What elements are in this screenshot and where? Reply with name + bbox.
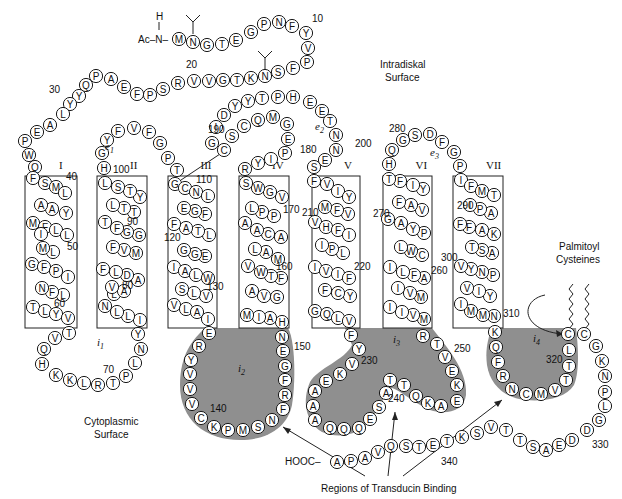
residue: V — [183, 382, 196, 395]
svg-text:G: G — [450, 147, 458, 158]
svg-text:F: F — [397, 176, 403, 187]
svg-text:Y: Y — [135, 329, 142, 340]
position-number: 50 — [67, 241, 79, 252]
residue: T — [98, 215, 111, 228]
svg-text:M: M — [321, 202, 329, 213]
residue: R — [416, 329, 429, 342]
svg-text:Q: Q — [355, 423, 363, 434]
svg-text:F: F — [282, 375, 288, 386]
position-number: 320 — [546, 354, 563, 365]
residue: G — [244, 25, 257, 38]
arrowhead-1 — [283, 427, 291, 434]
residue: A — [308, 413, 321, 426]
svg-text:T: T — [434, 339, 440, 350]
residue: M — [266, 110, 279, 123]
residue: G — [589, 339, 602, 352]
svg-text:L: L — [64, 230, 70, 241]
svg-text:F: F — [134, 89, 140, 100]
svg-text:K: K — [425, 398, 432, 409]
residue: V — [275, 190, 288, 203]
svg-text:H: H — [100, 163, 107, 174]
residue: P — [300, 55, 313, 68]
svg-text:E: E — [206, 328, 213, 339]
svg-text:Q: Q — [388, 145, 396, 156]
position-number: 270 — [373, 208, 390, 219]
residue: A — [539, 443, 552, 456]
residue: T — [430, 337, 443, 350]
svg-text:C: C — [264, 229, 271, 240]
residue: N — [329, 143, 342, 156]
residue: S — [307, 160, 320, 173]
svg-text:L: L — [206, 230, 212, 241]
svg-text:P: P — [275, 92, 282, 103]
residue: A — [245, 284, 258, 297]
residue: S — [111, 180, 124, 193]
svg-text:L: L — [566, 345, 572, 356]
svg-text:M: M — [479, 310, 487, 321]
svg-text:T: T — [386, 174, 392, 185]
svg-text:F: F — [171, 219, 177, 230]
residue: Y — [251, 156, 264, 169]
residue: K — [421, 396, 434, 409]
residue: S — [225, 129, 238, 142]
svg-text:S: S — [160, 84, 167, 95]
residue: K — [207, 420, 220, 433]
residue: E — [363, 412, 376, 425]
residue: M — [318, 200, 331, 213]
residue: F — [167, 217, 180, 230]
svg-text:V: V — [121, 245, 128, 256]
svg-text:F: F — [278, 273, 284, 284]
residue: I — [395, 305, 408, 318]
svg-text:C: C — [197, 413, 204, 424]
svg-text:K: K — [492, 327, 499, 338]
svg-text:I: I — [337, 269, 340, 280]
svg-text:T: T — [30, 302, 36, 313]
residue: V — [61, 311, 74, 324]
residue: V — [48, 331, 61, 344]
residue: W — [254, 265, 267, 278]
residue: L — [98, 176, 111, 189]
residue: A — [274, 230, 287, 243]
svg-text:R: R — [281, 390, 288, 401]
residue: P — [49, 264, 62, 277]
rhodopsin-topology-diagram: IIIIIIIVVVIVII MNGTEGPNFYVPFSNKTGVVRSPFE… — [0, 0, 622, 499]
residue: A — [394, 216, 407, 229]
residue: L — [106, 198, 119, 211]
svg-text:F: F — [280, 404, 286, 415]
residue: T — [106, 376, 119, 389]
residue: F — [286, 61, 299, 74]
svg-text:R: R — [94, 380, 101, 391]
svg-text:P: P — [477, 204, 484, 215]
residue: A — [475, 223, 488, 236]
svg-text:V: V — [187, 369, 194, 380]
residue: E — [281, 132, 294, 145]
residue: I — [383, 260, 396, 273]
intradiskal-label-1: Intradiskal — [380, 59, 426, 70]
residue: L — [394, 240, 407, 253]
residue: E — [445, 364, 458, 377]
position-number: 190 — [208, 124, 225, 135]
svg-text:F: F — [311, 176, 317, 187]
svg-text:H: H — [385, 159, 392, 170]
svg-text:K: K — [248, 73, 255, 84]
svg-text:M: M — [467, 306, 475, 317]
residue: D — [423, 127, 436, 140]
svg-text:G: G — [191, 249, 199, 260]
residue: T — [465, 240, 478, 253]
residue: F — [285, 19, 298, 32]
svg-text:I: I — [460, 299, 463, 310]
palmitoyl-chain-1 — [569, 284, 573, 332]
svg-text:A: A — [267, 313, 274, 324]
svg-text:D: D — [220, 110, 227, 121]
svg-text:I: I — [67, 272, 70, 283]
residue-chain: MNGTEGPNFYVPFSNKTGVVRSPFEAPQYYLAEPWQFSML… — [18, 15, 611, 468]
residue: S — [408, 128, 421, 141]
residue: I — [472, 284, 485, 297]
svg-text:I: I — [173, 262, 176, 273]
residue: D — [217, 108, 230, 121]
svg-text:C: C — [418, 250, 425, 261]
residue: Y — [59, 206, 72, 219]
svg-text:W: W — [256, 267, 266, 278]
svg-text:P: P — [259, 207, 266, 218]
residue: N — [275, 330, 288, 343]
